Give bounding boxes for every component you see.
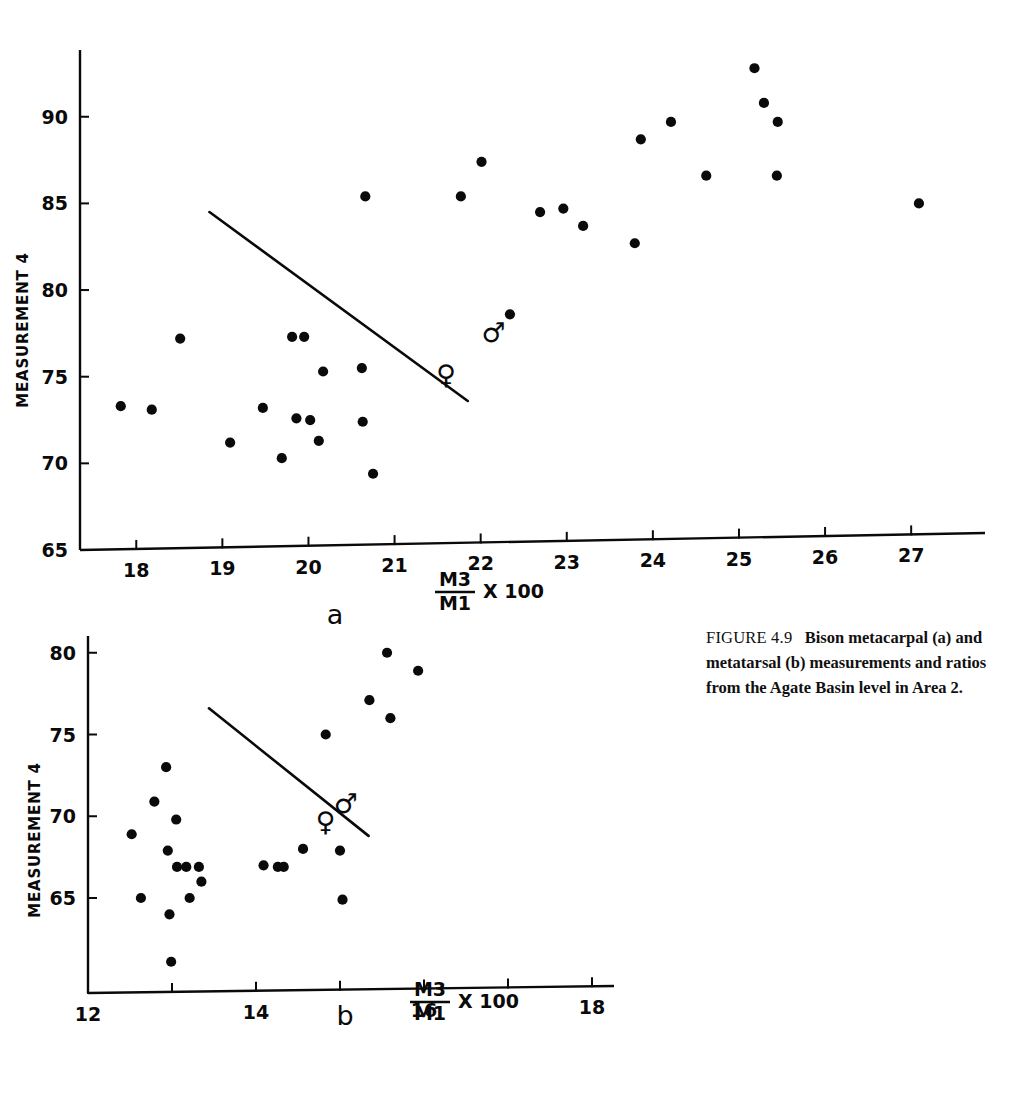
data-point bbox=[749, 63, 759, 73]
data-point bbox=[701, 171, 711, 181]
data-point bbox=[630, 238, 640, 248]
data-point bbox=[505, 309, 515, 319]
data-point bbox=[185, 893, 195, 903]
data-point bbox=[636, 134, 646, 144]
y-axis-title-b: MEASUREMENT 4 bbox=[26, 762, 44, 918]
y-tick-label-b-70: 70 bbox=[50, 805, 76, 827]
x-tick-label-b-14: 14 bbox=[243, 1001, 269, 1023]
data-point bbox=[161, 762, 171, 772]
data-point bbox=[279, 862, 289, 872]
caption-label: FIGURE 4.9 bbox=[706, 628, 792, 647]
x-tick-label-b-18: 18 bbox=[579, 996, 605, 1018]
panel-a: 65707580859018192021222324252627MEASUREM… bbox=[14, 50, 985, 630]
panel-letter-a: a bbox=[327, 599, 344, 630]
panel-letter-b: b bbox=[336, 1000, 353, 1031]
data-point bbox=[456, 191, 466, 201]
figure-plot-canvas: 65707580859018192021222324252627MEASUREM… bbox=[0, 0, 1012, 1101]
data-point bbox=[318, 366, 328, 376]
figure-caption: FIGURE 4.9 Bison metacarpal (a) and meta… bbox=[706, 625, 991, 700]
data-point bbox=[258, 403, 268, 413]
data-point bbox=[194, 862, 204, 872]
data-point bbox=[321, 729, 331, 739]
x-tick-label-a-26: 26 bbox=[812, 546, 838, 568]
data-point bbox=[291, 413, 301, 423]
data-point bbox=[147, 405, 157, 415]
x-tick-label-a-23: 23 bbox=[554, 551, 580, 573]
data-point bbox=[181, 862, 191, 872]
figure-4-9: 65707580859018192021222324252627MEASUREM… bbox=[0, 0, 1012, 1101]
x-axis-title-denominator-b: M1 bbox=[414, 1002, 446, 1024]
x-axis-title-numerator-b: M3 bbox=[414, 978, 446, 1000]
data-point bbox=[298, 844, 308, 854]
y-tick-label-a-85: 85 bbox=[42, 192, 68, 214]
data-point bbox=[759, 98, 769, 108]
male-symbol-a: ♂ bbox=[481, 317, 505, 348]
data-point bbox=[772, 171, 782, 181]
x-tick-label-a-22: 22 bbox=[467, 552, 493, 574]
female-symbol-b: ♀ bbox=[316, 806, 336, 837]
y-tick-label-a-80: 80 bbox=[42, 279, 68, 301]
data-point bbox=[364, 695, 374, 705]
x-tick-label-b-12: 12 bbox=[75, 1003, 101, 1025]
data-point bbox=[385, 713, 395, 723]
x-axis-title-denominator-a: M1 bbox=[439, 592, 471, 614]
data-point bbox=[305, 415, 315, 425]
data-point bbox=[773, 117, 783, 127]
data-point bbox=[225, 437, 235, 447]
data-point bbox=[358, 417, 368, 427]
data-point bbox=[196, 877, 206, 887]
data-point bbox=[578, 221, 588, 231]
data-point bbox=[175, 333, 185, 343]
data-point bbox=[149, 796, 159, 806]
data-point bbox=[413, 666, 423, 676]
y-tick-label-a-90: 90 bbox=[42, 106, 68, 128]
y-axis-title-a: MEASUREMENT 4 bbox=[14, 252, 32, 408]
panel-b: 6570758012141618MEASUREMENT 4M3M1X 100b♂… bbox=[26, 636, 614, 1031]
x-axis-line-a bbox=[80, 533, 985, 550]
data-point bbox=[127, 829, 137, 839]
x-axis-line-b bbox=[88, 986, 614, 993]
data-point bbox=[166, 957, 176, 967]
y-tick-label-a-75: 75 bbox=[42, 366, 68, 388]
sex-divider-line-a bbox=[209, 212, 467, 401]
x-axis-title-suffix-b: X 100 bbox=[458, 990, 519, 1012]
data-point bbox=[163, 845, 173, 855]
data-point bbox=[357, 363, 367, 373]
data-point bbox=[368, 469, 378, 479]
x-axis-title-suffix-a: X 100 bbox=[483, 580, 544, 602]
x-tick-label-a-18: 18 bbox=[123, 559, 149, 581]
data-point bbox=[535, 207, 545, 217]
data-point bbox=[171, 814, 181, 824]
data-point bbox=[277, 453, 287, 463]
x-tick-label-a-19: 19 bbox=[209, 557, 235, 579]
y-tick-label-b-75: 75 bbox=[50, 724, 76, 746]
data-point bbox=[164, 909, 174, 919]
data-point bbox=[116, 401, 126, 411]
data-point bbox=[299, 332, 309, 342]
data-point bbox=[287, 332, 297, 342]
data-point bbox=[335, 845, 345, 855]
data-point bbox=[337, 895, 347, 905]
data-point bbox=[382, 648, 392, 658]
x-tick-label-a-27: 27 bbox=[898, 544, 924, 566]
data-point bbox=[558, 203, 568, 213]
x-tick-label-a-20: 20 bbox=[295, 556, 321, 578]
female-symbol-a: ♀ bbox=[436, 359, 456, 390]
y-tick-label-a-65: 65 bbox=[42, 539, 68, 561]
x-tick-label-a-25: 25 bbox=[726, 548, 752, 570]
male-symbol-b: ♂ bbox=[334, 788, 358, 819]
x-tick-label-a-21: 21 bbox=[381, 554, 407, 576]
y-tick-label-b-65: 65 bbox=[50, 887, 76, 909]
data-point bbox=[476, 157, 486, 167]
x-tick-label-a-24: 24 bbox=[640, 549, 666, 571]
data-point bbox=[258, 860, 268, 870]
y-tick-label-a-70: 70 bbox=[42, 452, 68, 474]
data-point bbox=[172, 862, 182, 872]
data-point bbox=[666, 117, 676, 127]
data-point bbox=[136, 893, 146, 903]
data-point bbox=[360, 191, 370, 201]
y-tick-label-b-80: 80 bbox=[50, 642, 76, 664]
data-point bbox=[314, 436, 324, 446]
x-axis-title-numerator-a: M3 bbox=[439, 568, 471, 590]
data-point bbox=[914, 198, 924, 208]
